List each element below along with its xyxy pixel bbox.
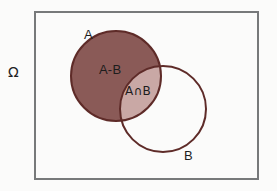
venn-diagram-figure: Ω A A-B A∩B B — [0, 0, 277, 191]
region-a-minus-b-label: A-B — [99, 63, 121, 76]
region-a-intersect-b-label: A∩B — [125, 85, 151, 97]
set-b-label: B — [184, 149, 193, 162]
omega-label: Ω — [8, 65, 19, 79]
set-a-label: A — [84, 28, 93, 41]
